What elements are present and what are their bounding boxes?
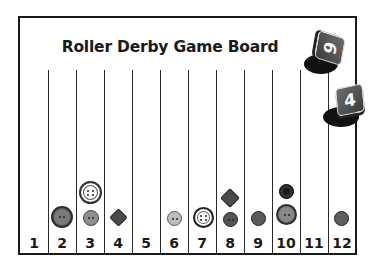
button-token-col8[interactable]: [223, 212, 238, 227]
column-divider: [48, 70, 49, 253]
button-holes: [59, 216, 65, 218]
column-divider: [272, 70, 273, 253]
button-holes: [200, 215, 208, 221]
button-token-col3-top[interactable]: [79, 181, 102, 204]
column-divider: [188, 70, 189, 253]
column-label-3: 3: [76, 235, 104, 251]
column-label-4: 4: [104, 235, 132, 251]
column-divider: [104, 70, 105, 253]
column-label-2: 2: [48, 235, 76, 251]
column-label-5: 5: [132, 235, 160, 251]
column-label-11: 11: [300, 235, 328, 251]
column-divider: [160, 70, 161, 253]
button-token-col10-bottom[interactable]: [276, 204, 297, 225]
diamond-button-token-col8[interactable]: [220, 188, 240, 208]
button-token-col2[interactable]: [51, 206, 73, 228]
column-divider: [216, 70, 217, 253]
column-divider: [76, 70, 77, 253]
column-label-10: 10: [272, 235, 300, 251]
column-label-8: 8: [216, 235, 244, 251]
button-holes: [88, 217, 94, 219]
button-holes: [228, 219, 234, 221]
button-token-col12[interactable]: [334, 211, 349, 226]
column-divider: [328, 70, 329, 253]
column-label-9: 9: [244, 235, 272, 251]
button-token-col10-top[interactable]: [279, 184, 294, 199]
column-label-7: 7: [188, 235, 216, 251]
button-holes: [172, 218, 178, 220]
column-divider: [300, 70, 301, 253]
board-title: Roller Derby Game Board: [20, 38, 320, 56]
button-token-col6[interactable]: [167, 211, 182, 226]
diamond-button-token-col4[interactable]: [109, 208, 127, 226]
button-holes: [87, 190, 95, 196]
game-board: Roller Derby Game Board 1 2 3 4 5 6 7 8 …: [18, 16, 357, 255]
button-token-col3-bottom[interactable]: [83, 210, 99, 226]
die-4[interactable]: 4: [335, 83, 365, 117]
button-token-col9[interactable]: [251, 211, 266, 226]
button-token-col7[interactable]: [193, 207, 214, 228]
column-label-6: 6: [160, 235, 188, 251]
button-holes: [284, 214, 290, 216]
column-divider: [132, 70, 133, 253]
column-label-12: 12: [328, 235, 356, 251]
column-divider: [244, 70, 245, 253]
column-label-1: 1: [20, 235, 48, 251]
